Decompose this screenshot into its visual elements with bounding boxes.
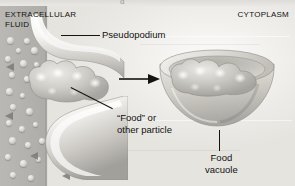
solute-sphere — [19, 126, 25, 132]
extracellular-fluid-line1: Extracellular — [5, 10, 76, 19]
callout-label-food-particle: “Food” or other particle — [117, 112, 172, 135]
cropped-caption-glyph: d — [120, 0, 125, 4]
pseudopodium-leader-line — [61, 35, 100, 36]
region-label-cytoplasm: Cytoplasm — [238, 10, 289, 20]
phagocytosis-diagram: d — [0, 0, 295, 186]
cytoplasm-shadow-line — [140, 44, 260, 45]
food-particle-in-vacuole — [168, 57, 264, 97]
food-vacuole-line1: Food — [205, 152, 238, 164]
solute-sphere — [9, 137, 16, 144]
solute-sphere — [9, 72, 15, 78]
region-label-extracellular-fluid: Extracellular Fluid — [5, 10, 76, 30]
solute-triangle — [5, 112, 13, 120]
food-particle-line1: “Food” or — [117, 112, 172, 124]
food-vacuole-leader-line — [219, 130, 220, 151]
cytoplasm-streak — [150, 36, 290, 37]
engulfment-arrow — [119, 72, 161, 86]
solute-sphere — [6, 120, 12, 126]
pseudopod-lower-arm — [28, 96, 128, 180]
solute-sphere — [5, 56, 11, 62]
food-particle-cluster — [24, 56, 116, 104]
solute-sphere — [10, 104, 16, 110]
food-vacuole-line2: vacuole — [205, 164, 238, 176]
solute-sphere — [7, 37, 14, 44]
solute-sphere — [10, 172, 16, 178]
solute-sphere — [20, 160, 27, 167]
solute-sphere — [6, 88, 13, 95]
extracellular-fluid-line2: Fluid — [5, 20, 29, 29]
callout-label-food-vacuole: Food vacuole — [205, 152, 238, 175]
callout-label-pseudopodium: Pseudopodium — [102, 29, 165, 41]
food-particle-line2: other particle — [117, 124, 172, 136]
solute-sphere — [16, 48, 21, 53]
solute-sphere — [5, 154, 11, 160]
solute-triangle — [6, 63, 14, 71]
